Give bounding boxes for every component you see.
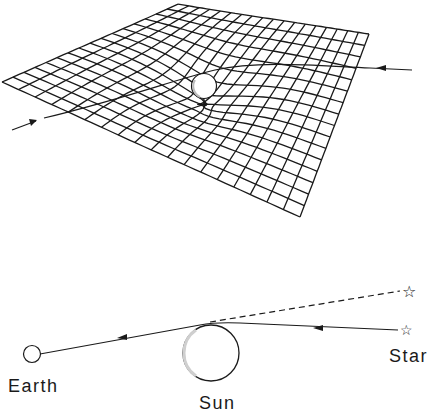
gravity-lensing-diagram: ☆ ☆ xyxy=(0,0,431,417)
actual-star-icon: ☆ xyxy=(400,322,413,338)
earth-circle xyxy=(24,346,41,363)
apparent-star-icon: ☆ xyxy=(402,282,416,301)
sun-circle xyxy=(183,325,239,381)
earth-label: Earth xyxy=(8,376,59,397)
sun-label: Sun xyxy=(199,393,236,414)
star-label: Star xyxy=(389,346,428,367)
arrowhead-icon xyxy=(29,119,37,126)
arrowhead-icon xyxy=(376,65,386,71)
mass-sphere xyxy=(192,74,217,99)
light-path-top xyxy=(12,64,412,130)
spacetime-grid xyxy=(2,4,369,217)
